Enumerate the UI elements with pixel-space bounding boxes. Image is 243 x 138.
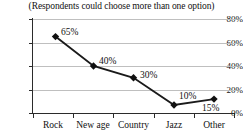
series-line-chart xyxy=(0,0,243,138)
data-label-jazz: 10% xyxy=(179,91,196,101)
data-label-other: 15% xyxy=(202,103,219,113)
data-point-marker-other[interactable] xyxy=(210,95,217,102)
data-label-country: 30% xyxy=(140,70,157,80)
chart-container: (Respondents could choose more than one … xyxy=(0,0,243,138)
data-label-rock: 65% xyxy=(61,27,78,37)
data-label-new-age: 40% xyxy=(99,56,116,66)
